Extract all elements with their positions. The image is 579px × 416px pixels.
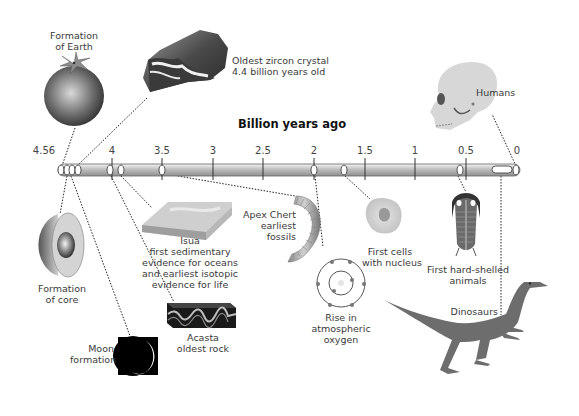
tick-label: 1.5 xyxy=(357,145,373,156)
label-dinosaurs: Dinosaurs xyxy=(450,306,498,317)
tick-label: 4 xyxy=(109,145,115,156)
trilobite-icon xyxy=(452,193,480,256)
nucleated-cell-icon xyxy=(366,198,402,234)
label-humans: Humans xyxy=(476,87,515,98)
tick-label: 3 xyxy=(210,145,216,156)
earth-globe-icon xyxy=(44,52,104,126)
tick-label: 0 xyxy=(514,145,520,156)
axis-title: Billion years ago xyxy=(238,117,346,131)
label-formation-of-core: Formation of core xyxy=(34,283,90,305)
label-moon-formation: Moon formation xyxy=(70,343,114,365)
earth-core-cutaway-icon xyxy=(38,213,84,277)
tick-label: 1 xyxy=(412,145,418,156)
dinosaur-icon xyxy=(384,282,548,374)
label-rise-in-oxygen: Rise in atmospheric oxygen xyxy=(310,312,372,345)
label-first-hard-shelled: First hard-shelled animals xyxy=(426,264,510,286)
rock-strata-icon xyxy=(167,303,236,328)
geologic-timeline-diagram: Billion years ago 4.56 4 3.5 3 2.5 2 1.5… xyxy=(0,0,579,416)
timeline-bar xyxy=(58,158,520,180)
label-formation-of-earth: Formation of Earth xyxy=(48,30,100,52)
label-apex-chert: Apex Chert earliest fossils xyxy=(240,209,296,242)
oxygen-atom-icon xyxy=(316,259,366,307)
label-first-cells: First cells with nucleus xyxy=(362,246,418,268)
label-isua: Isua first sedimentary evidence for ocea… xyxy=(140,235,240,290)
tick-label: 2.5 xyxy=(255,145,271,156)
moon-crescent-icon xyxy=(113,336,158,376)
zircon-crystal-icon xyxy=(143,30,228,92)
tick-label: 0.5 xyxy=(458,145,474,156)
label-acasta-oldest-rock: Acasta oldest rock xyxy=(172,332,234,354)
label-oldest-zircon: Oldest zircon crystal 4.4 billion years … xyxy=(232,55,329,77)
tick-label: 2 xyxy=(311,145,317,156)
tick-label: 4.56 xyxy=(33,145,55,156)
tick-label: 3.5 xyxy=(154,145,170,156)
